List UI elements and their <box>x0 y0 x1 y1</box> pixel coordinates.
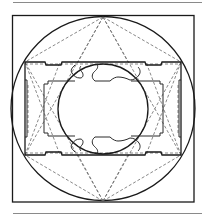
outer-circle <box>11 17 195 201</box>
lobed-cutouts <box>71 64 140 154</box>
inner-circle <box>58 64 148 154</box>
notched-rectangle <box>25 62 181 155</box>
construction-lines <box>25 17 181 201</box>
geometric-diagram <box>0 0 202 216</box>
